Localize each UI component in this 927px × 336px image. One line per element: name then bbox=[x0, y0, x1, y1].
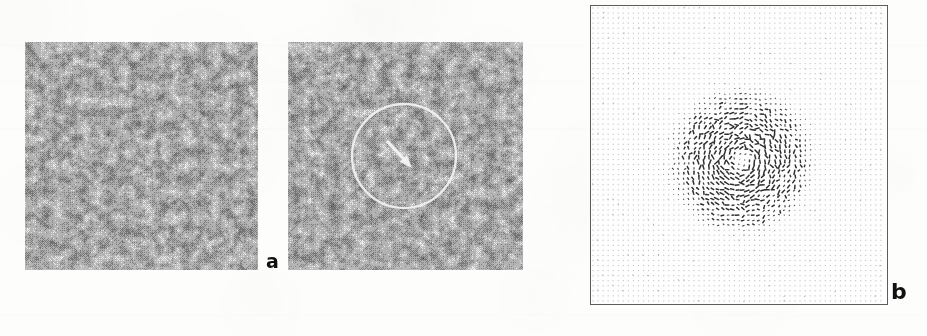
micrograph-panel-left bbox=[25, 42, 258, 270]
panel-label-a: a bbox=[266, 252, 279, 271]
vector-field-panel bbox=[590, 5, 888, 305]
vector-field-plot bbox=[591, 6, 887, 304]
micrograph-panel-right bbox=[288, 42, 523, 270]
region-of-interest-circle bbox=[352, 104, 456, 208]
feature-pointer-arrow bbox=[388, 142, 412, 168]
panel-label-b: b bbox=[891, 281, 907, 303]
figure-container: a b bbox=[0, 0, 927, 336]
micrograph-annotation-overlay bbox=[288, 42, 523, 270]
micrograph-image-left bbox=[25, 42, 258, 270]
